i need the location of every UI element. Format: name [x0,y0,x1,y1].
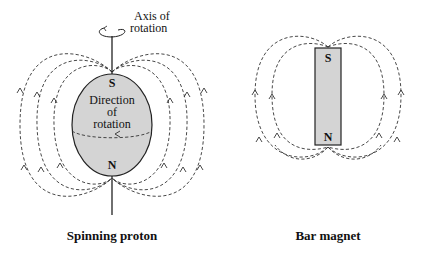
axis-label-line2: rotation [130,21,167,35]
direction-label-line3: rotation [93,117,130,131]
magnet-caption: Bar magnet [295,228,361,243]
proton-north-label: N [108,158,117,172]
proton-south-label: S [109,76,116,90]
magnet-south-label: S [325,51,332,65]
spinning-proton-diagram: Axis of rotation S Direction of rotation… [17,9,207,243]
proton-caption: Spinning proton [67,228,158,243]
axis-rotation-arrow-icon [99,28,125,37]
magnet-north-label: N [324,130,333,144]
bar-magnet-diagram: S N Bar magnet [252,36,404,243]
